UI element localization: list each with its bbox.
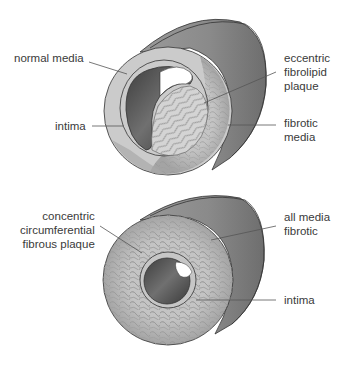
label-intima-top: intima [55, 119, 86, 133]
label-fibrotic-media: fibrotic media [284, 116, 318, 144]
label-concentric-plaque: concentric circumferential fibrous plaqu… [20, 209, 95, 251]
concentric-plaque-artery [103, 196, 264, 345]
label-eccentric-plaque: eccentric fibrolipid plaque [284, 51, 330, 93]
label-intima-bottom: intima [284, 293, 315, 307]
label-normal-media: normal media [14, 51, 84, 65]
label-all-media-fibrotic: all media fibrotic [284, 210, 330, 238]
eccentric-plaque-artery [104, 19, 266, 175]
